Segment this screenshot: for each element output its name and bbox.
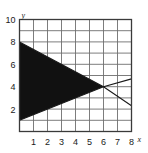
- y-axis-label: y: [21, 11, 26, 20]
- x-tick-label: 6: [101, 137, 106, 147]
- y-tick-label: 6: [10, 60, 15, 70]
- x-tick-label: 2: [45, 137, 50, 147]
- x-tick-label: 4: [73, 137, 78, 147]
- x-tick-label: 7: [115, 137, 120, 147]
- caption-top-fragment: [0, 0, 148, 2]
- y-tick-label: 4: [10, 82, 15, 92]
- y-axis-tick-labels: 246810: [5, 15, 15, 115]
- y-tick-label: 10: [5, 15, 15, 25]
- y-tick-label: 2: [10, 105, 15, 115]
- x-axis-tick-labels: 12345678: [31, 137, 134, 147]
- y-tick-label: 8: [10, 37, 15, 47]
- x-tick-label: 1: [31, 137, 36, 147]
- x-tick-label: 8: [129, 137, 134, 147]
- graph-figure: 12345678 246810 x y: [0, 0, 148, 153]
- coordinate-plot: 12345678 246810 x y: [0, 0, 148, 153]
- x-tick-label: 3: [59, 137, 64, 147]
- x-axis-label: x: [137, 135, 142, 144]
- x-tick-label: 5: [87, 137, 92, 147]
